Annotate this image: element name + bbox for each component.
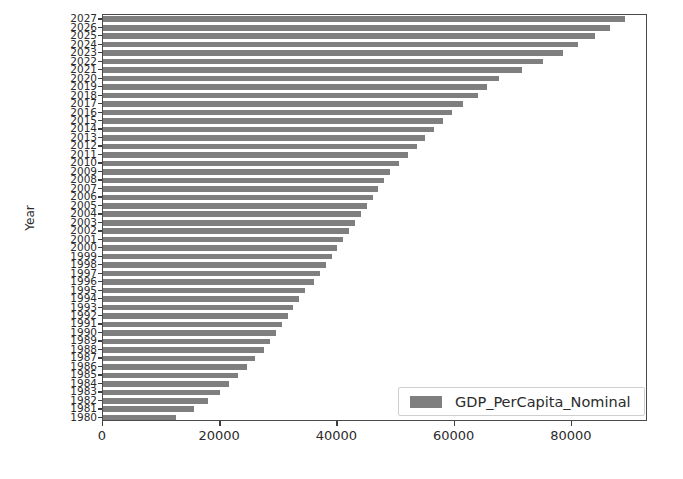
bar [103,254,332,260]
bar [103,203,367,209]
bar-fill [103,339,270,345]
y-tick-mark [98,391,102,392]
bar-fill [103,178,384,184]
y-tick-mark [98,239,102,240]
y-tick-mark [98,290,102,291]
bar-fill [103,16,625,22]
y-tick-mark [98,230,102,231]
bar [103,211,361,217]
bar-fill [103,296,299,302]
y-tick-mark [98,78,102,79]
y-tick-mark [98,273,102,274]
y-tick-mark [98,307,102,308]
legend-label-gdp-percapita-nominal: GDP_PerCapita_Nominal [455,394,631,410]
y-tick-mark [98,383,102,384]
y-tick-mark [98,400,102,401]
bar [103,390,220,396]
x-tick-mark [102,421,103,426]
bar [103,364,247,370]
y-tick-mark [98,95,102,96]
y-tick-mark [98,298,102,299]
y-tick-mark [98,408,102,409]
bar-fill [103,101,463,107]
y-tick-mark [98,222,102,223]
x-tick-mark [219,421,220,426]
bar [103,322,282,328]
bar-fill [103,356,255,362]
bar [103,169,390,175]
y-tick-mark [98,366,102,367]
bar [103,50,563,56]
bar-fill [103,211,361,217]
bar-fill [103,42,578,48]
chart-legend[interactable]: GDP_PerCapita_Nominal [398,387,645,416]
bar [103,373,238,379]
x-tick-label: 60000 [433,428,474,443]
legend-swatch-gdp-percapita-nominal [410,396,442,408]
bar [103,398,208,404]
bar [103,271,320,277]
bar [103,84,487,90]
bar-fill [103,25,610,31]
bar [103,152,408,158]
bar-fill [103,228,349,234]
y-tick-mark [98,196,102,197]
bar [103,127,434,133]
y-tick-mark [98,188,102,189]
bar-fill [103,93,478,99]
bar [103,296,299,302]
bar-fill [103,110,452,116]
x-tick-label: 40000 [316,428,357,443]
x-tick-mark [336,421,337,426]
bar [103,93,478,99]
bar [103,356,255,362]
bar-fill [103,50,563,56]
bar-fill [103,406,194,412]
bar [103,313,288,319]
y-tick-mark [98,332,102,333]
bar-fill [103,288,305,294]
y-axis-title: Year [23,205,37,230]
bar-fill [103,237,343,243]
bar [103,161,399,167]
y-tick-mark [98,264,102,265]
y-tick-mark [98,86,102,87]
y-tick-mark [98,52,102,53]
bar-fill [103,305,293,311]
y-tick-mark [98,61,102,62]
bar-fill [103,262,326,268]
y-tick-mark [98,120,102,121]
bar [103,339,270,345]
y-tick-mark [98,213,102,214]
y-tick-label: 1980 [70,412,97,423]
y-tick-mark [98,69,102,70]
y-tick-mark [98,417,102,418]
y-tick-mark [98,179,102,180]
bar [103,101,463,107]
y-tick-mark [98,44,102,45]
plot-area [102,14,647,421]
bar [103,42,578,48]
bar-fill [103,33,595,39]
y-tick-mark [98,247,102,248]
bar-fill [103,364,247,370]
bar [103,25,610,31]
bar [103,144,417,150]
bar-fill [103,144,417,150]
bar [103,288,305,294]
bar [103,406,194,412]
y-tick-mark [98,281,102,282]
bar [103,228,349,234]
bar-fill [103,373,238,379]
bar [103,330,276,336]
bar-fill [103,254,332,260]
bar [103,195,373,201]
bar-fill [103,381,229,387]
bar [103,381,229,387]
bar [103,118,443,124]
y-tick-mark [98,35,102,36]
bar [103,415,176,421]
bar [103,305,293,311]
y-tick-mark [98,349,102,350]
bar-fill [103,279,314,285]
